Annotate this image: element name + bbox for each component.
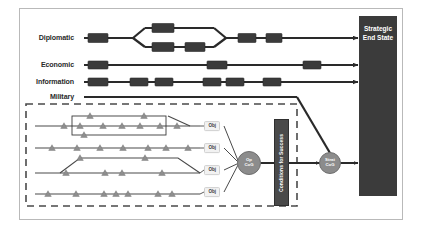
- loe-action-node[interactable]: [207, 61, 227, 69]
- end-state-line1: Strategic: [364, 25, 392, 34]
- loe-label-diplomatic: Diplomatic: [0, 34, 74, 42]
- objective-chip[interactable]: Obj: [204, 187, 220, 197]
- strat-cog-node[interactable]: Strat CoG: [319, 152, 341, 174]
- loe-action-node[interactable]: [152, 43, 174, 52]
- loe-action-node[interactable]: [185, 43, 205, 52]
- conditions-for-success-bar[interactable]: Conditions for Success: [274, 119, 289, 206]
- loe-action-node[interactable]: [226, 78, 244, 86]
- loe-action-node[interactable]: [88, 78, 108, 86]
- loe-label-information: Information: [0, 78, 74, 86]
- loe-action-node[interactable]: [266, 34, 282, 43]
- loe-action-node[interactable]: [263, 78, 281, 86]
- loe-action-node[interactable]: [203, 78, 221, 86]
- loe-branch-leg: [133, 38, 145, 47]
- objective-chip[interactable]: Obj: [204, 143, 220, 153]
- objective-to-opcog-link: [224, 126, 239, 163]
- objective-chip[interactable]: Obj: [204, 121, 220, 131]
- loe-label-military: Military: [0, 93, 74, 101]
- objective-to-opcog-link: [224, 163, 239, 192]
- loe-action-node[interactable]: [238, 34, 256, 43]
- swimlane-exit-bend: [168, 116, 190, 126]
- lines-of-effort-layer: [84, 24, 358, 98]
- loe-action-node[interactable]: [152, 24, 174, 33]
- end-state-line2: End State: [363, 34, 393, 43]
- loe-action-node[interactable]: [130, 78, 148, 86]
- strategic-end-state-box[interactable]: Strategic End State: [359, 16, 397, 196]
- diagram-canvas: Diplomatic Economic Information Military…: [0, 0, 422, 233]
- strat-cog-line2: CoG: [325, 163, 334, 168]
- op-cog-line2: CoG: [244, 163, 253, 168]
- loe-action-node[interactable]: [155, 78, 173, 86]
- op-cog-node[interactable]: Op CoG: [237, 151, 261, 175]
- loe-action-node[interactable]: [88, 34, 108, 43]
- loe-action-node[interactable]: [88, 61, 108, 69]
- loe-label-economic: Economic: [0, 61, 74, 69]
- objective-chip[interactable]: Obj: [204, 165, 220, 175]
- loe-branch-leg: [214, 28, 226, 38]
- connector-layer: [224, 97, 358, 192]
- loe-action-node[interactable]: [303, 61, 321, 69]
- loe-branch-leg: [133, 28, 145, 38]
- conditions-for-success-label: Conditions for Success: [279, 133, 285, 191]
- loe-branch-leg: [214, 38, 226, 47]
- military-to-strat-cog: [297, 97, 330, 153]
